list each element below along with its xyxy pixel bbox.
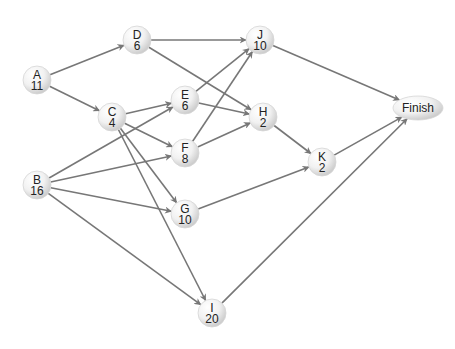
node-b: B16 (23, 171, 51, 199)
node-duration: 6 (182, 99, 189, 113)
node-c: C4 (98, 103, 126, 131)
edge-i-to-finish (222, 119, 407, 303)
node-f: F8 (171, 139, 199, 167)
node-d: D6 (123, 26, 151, 54)
edge-b-to-f (51, 156, 172, 182)
edges-layer (48, 40, 407, 305)
node-g: G10 (171, 200, 199, 228)
node-label: Finish (402, 101, 434, 115)
node-duration: 20 (205, 312, 219, 326)
node-duration: 8 (182, 152, 189, 166)
edge-a-to-d (50, 45, 124, 75)
node-e: E6 (171, 86, 199, 114)
node-k: K2 (308, 148, 336, 176)
network-diagram: A11B16C4D6E6F8G10H2I20J10K2Finish (0, 0, 455, 349)
edge-g-to-k (198, 167, 309, 209)
node-duration: 6 (134, 39, 141, 53)
edge-h-to-k (274, 126, 311, 154)
node-duration: 4 (109, 116, 116, 130)
node-i: I20 (198, 299, 226, 327)
edge-k-to-finish (334, 117, 402, 155)
edge-a-to-c (50, 86, 100, 111)
node-h: H2 (249, 103, 277, 131)
edge-f-to-h (198, 123, 251, 147)
node-duration: 10 (178, 213, 192, 227)
node-duration: 2 (260, 116, 267, 130)
node-duration: 16 (30, 184, 44, 198)
node-duration: 10 (253, 39, 267, 53)
edge-d-to-h (149, 47, 251, 109)
nodes-layer: A11B16C4D6E6F8G10H2I20J10K2Finish (23, 26, 443, 327)
edge-f-to-j (193, 52, 253, 142)
node-finish: Finish (393, 96, 443, 120)
edge-e-to-j (196, 49, 249, 92)
node-duration: 11 (31, 79, 44, 93)
node-duration: 2 (319, 161, 326, 175)
node-j: J10 (246, 26, 274, 54)
edge-j-to-finish (273, 46, 400, 101)
node-a: A11 (23, 66, 51, 94)
